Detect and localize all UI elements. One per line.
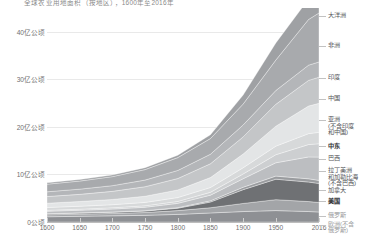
- legend-item-label: 欧洲(不含 俄罗斯): [328, 221, 354, 234]
- x-tick-mark: [80, 218, 81, 222]
- legend-item[interactable]: 拉丁美洲 和加勒比海 (不含巴西): [319, 167, 358, 186]
- legend-item[interactable]: 欧洲(不含 俄罗斯): [319, 221, 354, 234]
- legend-item-label: 中国: [328, 95, 340, 101]
- legend-leader-line-icon: [319, 171, 326, 172]
- legend-item-label: 俄罗斯: [328, 212, 346, 218]
- x-tick-mark: [276, 218, 277, 222]
- legend-leader-line-icon: [319, 146, 326, 147]
- x-tick-label: 1950: [269, 224, 284, 231]
- legend-leader-line-icon: [319, 16, 326, 17]
- legend-item[interactable]: 中国: [319, 95, 340, 101]
- plot-area: [47, 8, 319, 222]
- legend-item-label: 拉丁美洲 和加勒比海 (不含巴西): [328, 167, 358, 186]
- stacked-area-svg: [47, 8, 319, 222]
- x-tick-label: 1900: [236, 224, 251, 231]
- legend-item[interactable]: 中东: [319, 143, 340, 149]
- x-tick-mark: [243, 218, 244, 222]
- legend-item[interactable]: 巴西: [319, 155, 340, 161]
- legend-leader-line-icon: [319, 78, 326, 79]
- x-tick-mark: [178, 218, 179, 222]
- y-tick-label: 30亿公顷: [17, 74, 45, 84]
- legend-leader-line-icon: [319, 225, 326, 226]
- legend-item-label: 巴西: [328, 155, 340, 161]
- x-tick-label: 1800: [170, 224, 185, 231]
- y-axis: 0公顷10亿公顷20亿公顷30亿公顷40亿公顷: [0, 8, 45, 222]
- x-tick-label: 1650: [72, 224, 87, 231]
- x-tick-mark: [210, 218, 211, 222]
- x-axis: 160016501700175018001850190019502016: [47, 222, 319, 236]
- legend-leader-line-icon: [319, 46, 326, 47]
- legend-leader-line-icon: [319, 120, 326, 121]
- y-tick-label: 40亿公顷: [17, 27, 45, 37]
- x-tick-mark: [112, 218, 113, 222]
- legend-item-label: 美国: [328, 198, 340, 204]
- legend-leader-line-icon: [319, 159, 326, 160]
- legend-item[interactable]: 非洲: [319, 42, 340, 48]
- legend-item[interactable]: 大洋洲: [319, 12, 346, 18]
- legend-item-label: 非洲: [328, 42, 340, 48]
- legend-item-label: 中东: [328, 143, 340, 149]
- legend-item[interactable]: 美国: [319, 198, 340, 204]
- x-tick-label: 1850: [203, 224, 218, 231]
- legend-item[interactable]: 俄罗斯: [319, 212, 346, 218]
- legend: 大洋洲非洲印度中国亚洲 (不含印度 和中国)中东巴西拉丁美洲 和加勒比海 (不含…: [319, 8, 387, 222]
- legend-item-label: 亚洲 (不含印度 和中国): [328, 116, 354, 135]
- legend-leader-line-icon: [319, 190, 326, 191]
- legend-leader-line-icon: [319, 201, 326, 202]
- x-tick-mark: [145, 218, 146, 222]
- legend-leader-line-icon: [319, 216, 326, 217]
- x-tick-label: 1750: [138, 224, 153, 231]
- x-tick-label: 1700: [105, 224, 120, 231]
- legend-item[interactable]: 加拿大: [319, 187, 346, 193]
- x-tick-mark: [47, 218, 48, 222]
- x-tick-label: 1600: [40, 224, 55, 231]
- chart-title: 全球农业用地面积（按地区），1600年至2016年: [24, 0, 174, 7]
- legend-item-label: 加拿大: [328, 187, 346, 193]
- legend-item[interactable]: 印度: [319, 74, 340, 80]
- legend-item[interactable]: 亚洲 (不含印度 和中国): [319, 116, 354, 135]
- chart-page: 全球农业用地面积（按地区），1600年至2016年 0公顷10亿公顷20亿公顷3…: [0, 0, 387, 244]
- legend-item-label: 印度: [328, 74, 340, 80]
- y-tick-label: 10亿公顷: [17, 169, 45, 179]
- y-tick-label: 20亿公顷: [17, 122, 45, 132]
- legend-leader-line-icon: [319, 99, 326, 100]
- legend-item-label: 大洋洲: [328, 12, 346, 18]
